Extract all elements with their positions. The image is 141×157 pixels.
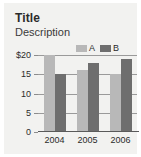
legend-swatch-icon-a bbox=[76, 45, 87, 52]
chart-card: Title Description A B $20151050 20042005… bbox=[4, 3, 137, 154]
x-axis-tick-label: 2004 bbox=[39, 135, 70, 145]
x-axis-line bbox=[38, 131, 139, 132]
y-axis-tick-label: 5 bbox=[26, 108, 31, 118]
chart-description: Description bbox=[15, 26, 70, 39]
bar-a-2004[interactable] bbox=[44, 55, 55, 132]
y-axis-tick-label: $20 bbox=[16, 50, 31, 60]
page-title: Title bbox=[15, 12, 40, 25]
y-axis-tick-label: 10 bbox=[21, 89, 31, 99]
plot-area: $20151050 bbox=[38, 55, 137, 132]
bar-b-2005[interactable] bbox=[88, 63, 99, 132]
bar-b-2006[interactable] bbox=[121, 59, 132, 132]
chart-legend: A B bbox=[76, 44, 119, 53]
bar-b-2004[interactable] bbox=[55, 74, 66, 132]
legend-label-b: B bbox=[113, 44, 119, 53]
y-axis-tick-label: 0 bbox=[26, 127, 31, 137]
legend-item-b[interactable]: B bbox=[100, 44, 119, 53]
y-axis-tick-label: 15 bbox=[21, 69, 31, 79]
x-axis-tick-labels: 200420052006 bbox=[38, 135, 137, 145]
legend-label-a: A bbox=[89, 44, 95, 53]
x-axis-tick-label: 2006 bbox=[105, 135, 136, 145]
legend-item-a[interactable]: A bbox=[76, 44, 95, 53]
bar-group bbox=[72, 55, 103, 132]
y-axis-tick bbox=[34, 132, 38, 133]
bar-group bbox=[105, 55, 136, 132]
bar-a-2005[interactable] bbox=[77, 70, 88, 132]
bar-groups bbox=[38, 55, 137, 132]
legend-swatch-icon-b bbox=[100, 45, 111, 52]
x-axis-tick-label: 2005 bbox=[72, 135, 103, 145]
bar-group bbox=[39, 55, 70, 132]
bar-a-2006[interactable] bbox=[110, 74, 121, 132]
